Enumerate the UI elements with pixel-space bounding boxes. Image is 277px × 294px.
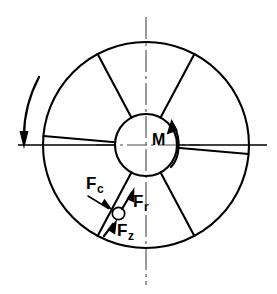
spoke-right [177, 148, 249, 154]
force-r-subscript: r [144, 200, 149, 214]
centerlines [96, 17, 200, 285]
spoke-upper-right [161, 54, 195, 118]
force-z-label: F [117, 221, 127, 240]
force-z-arrow-head [108, 219, 117, 235]
moment-label: M [152, 131, 165, 148]
clockwise-rotation-arrow [20, 77, 40, 149]
force-r-label: F [133, 192, 143, 211]
force-z-subscript: z [128, 229, 134, 243]
wheel-force-diagram: M F c F r F z [0, 0, 277, 294]
spoke-left [43, 136, 115, 142]
rotation-arrow-curve [24, 77, 39, 136]
force-c-label: F [86, 174, 96, 193]
spoke-lower-right [161, 172, 195, 236]
spoke-upper-left [98, 54, 132, 118]
diagram-canvas: M F c F r F z [0, 0, 277, 294]
force-c-subscript: c [97, 182, 104, 196]
rotation-arrow-head [20, 131, 29, 149]
force-c-vector [88, 196, 114, 212]
